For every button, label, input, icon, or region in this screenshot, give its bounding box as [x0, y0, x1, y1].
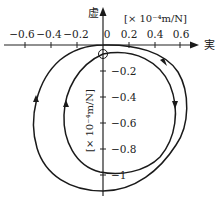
- x-tick-label: −0.4: [36, 28, 62, 40]
- x-tick-label: 0.4: [147, 28, 164, 40]
- y-tick-label: −0.2: [111, 65, 137, 77]
- imag-axis-label: 虚: [88, 7, 99, 20]
- imag-axis-arrow-icon: [100, 7, 107, 16]
- x-tick-label: 0: [104, 28, 111, 40]
- direction-arrow-icon: [63, 100, 69, 107]
- x-tick-label: −0.2: [63, 28, 89, 40]
- direction-arrow-icon: [172, 101, 178, 109]
- y-tick-label: −0.4: [111, 91, 137, 103]
- unit-label-side: [× 10⁻⁴m/N]: [84, 89, 95, 152]
- real-axis-arrow-icon: [190, 42, 199, 49]
- unit-label-top: [× 10⁻⁴m/N]: [124, 13, 187, 24]
- y-tick-label: −0.6: [111, 117, 137, 129]
- x-tick-label: −0.6: [9, 28, 35, 40]
- y-tick-label: −0.8: [111, 143, 137, 155]
- x-tick-label: 0.6: [173, 28, 190, 40]
- x-tick-label: 0.2: [121, 28, 138, 40]
- real-axis-label: 実: [204, 38, 215, 52]
- nyquist-chart: −0.6 −0.4 −0.2 0 0.2 0.4 0.6 −0.2 −0.4 −…: [0, 0, 224, 198]
- y-tick-label: −1: [111, 169, 126, 181]
